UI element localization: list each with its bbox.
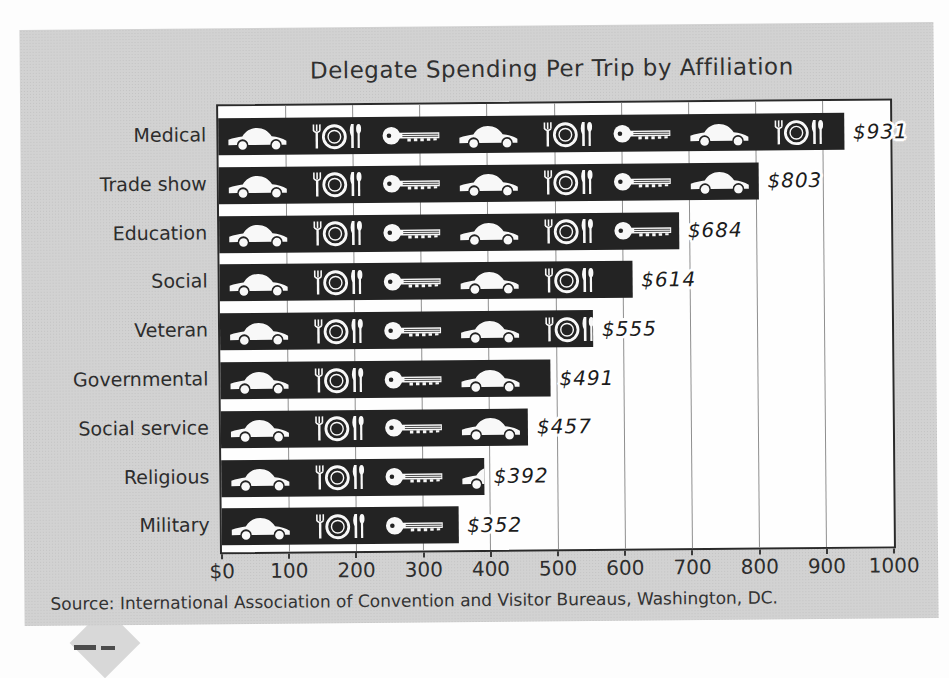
value-label-veteran: $555 (602, 316, 657, 340)
icon-slot (449, 116, 526, 154)
icon-slot (219, 215, 296, 253)
icon-slot (299, 507, 376, 545)
key-icon (382, 221, 442, 244)
category-label-governmental: Governmental (22, 360, 208, 399)
x-tick-label: 400 (455, 557, 527, 582)
icon-slot (604, 163, 681, 201)
icon-slot (375, 409, 452, 447)
place-setting-icon (308, 414, 364, 442)
car-icon (229, 465, 291, 492)
icon-slot (450, 213, 527, 251)
place-setting-icon (537, 119, 593, 147)
icon-slot (450, 262, 527, 300)
bar-social-service (221, 408, 528, 448)
bar-row: $803 (219, 161, 891, 204)
category-label-education: Education (21, 214, 207, 253)
car-icon (460, 463, 485, 490)
place-setting-icon (538, 266, 594, 294)
key-icon (612, 122, 672, 145)
icon-slot (375, 458, 452, 496)
key-icon (384, 465, 444, 488)
key-icon (612, 171, 672, 194)
car-icon (228, 367, 290, 394)
x-axis: $01002003004005006007008009001000 (19, 22, 933, 30)
x-tick-label: 100 (253, 558, 325, 583)
key-icon (383, 417, 443, 440)
place-setting-icon (538, 315, 593, 343)
x-tick-label: 600 (589, 555, 661, 580)
x-tick-label: 700 (656, 555, 728, 580)
icon-slot (527, 164, 604, 202)
value-label-trade-show: $803 (767, 168, 822, 192)
icon-slot (222, 508, 299, 546)
car-icon (226, 123, 288, 150)
category-labels: MedicalTrade showEducationSocialVeteranG… (19, 22, 933, 30)
icon-slot (220, 362, 297, 400)
x-tick-label: 200 (320, 558, 392, 583)
value-label-religious: $392 (494, 463, 549, 487)
bar-religious (221, 458, 485, 497)
value-label-governmental: $491 (559, 365, 614, 389)
place-setting-icon (306, 170, 362, 198)
x-tick-label: $0 (186, 559, 258, 584)
icon-slot (296, 263, 373, 301)
place-setting-icon (307, 219, 363, 247)
car-icon (227, 270, 289, 297)
icon-slot (376, 507, 453, 545)
icon-slot (296, 215, 373, 253)
bar-row: $684 (219, 210, 891, 253)
icon-slot (527, 261, 604, 299)
car-icon (229, 514, 291, 541)
icon-slot (451, 360, 528, 398)
x-tick-label: 800 (724, 554, 796, 579)
x-tick-label: 500 (522, 556, 594, 581)
icon-slot (450, 164, 527, 202)
chart-title: Delegate Spending Per Trip by Affiliatio… (216, 52, 888, 84)
key-icon (382, 319, 442, 342)
icon-slot (452, 458, 485, 495)
car-icon (458, 316, 520, 343)
key-icon (383, 368, 443, 391)
x-tick-label: 900 (791, 554, 863, 579)
car-icon (226, 172, 288, 199)
icon-slot (374, 360, 451, 398)
place-setting-icon (306, 122, 362, 150)
bar-row: $555 (220, 308, 892, 351)
bar-row: $392 (221, 454, 893, 497)
icon-slot (757, 113, 834, 151)
icon-slot (526, 115, 603, 153)
icon-slot (681, 162, 758, 200)
x-tick-label: 300 (388, 557, 460, 582)
chart-panel: Delegate Spending Per Trip by Affiliatio… (19, 22, 938, 626)
car-icon (227, 318, 289, 345)
bar-trade-show (219, 162, 759, 204)
category-label-social-service: Social service (23, 409, 209, 448)
place-setting-icon (309, 463, 365, 491)
bar-veteran (220, 310, 593, 350)
icon-slot (528, 310, 593, 348)
car-icon (458, 219, 520, 246)
bar-governmental (220, 359, 550, 399)
place-setting-icon (538, 217, 594, 245)
bar-row: $614 (219, 259, 891, 302)
icon-slot (373, 165, 450, 203)
category-label-religious: Religious (23, 458, 209, 497)
plot-area: $931 (216, 98, 896, 554)
gridline-layer (218, 100, 890, 106)
value-label-medical: $931 (853, 119, 908, 143)
icon-slot (372, 116, 449, 154)
icon-slot (297, 361, 374, 399)
car-icon (688, 168, 750, 195)
icon-slot (373, 214, 450, 252)
category-label-medical: Medical (20, 116, 206, 155)
icon-slot (373, 263, 450, 301)
key-icon (382, 270, 442, 293)
bar-medical (218, 113, 844, 155)
icon-slot (219, 166, 296, 204)
car-icon (459, 414, 521, 441)
bar-row: $457 (221, 405, 893, 448)
icon-slot (296, 166, 373, 204)
bar-row: $491 (220, 356, 892, 399)
category-label-veteran: Veteran (22, 312, 208, 351)
icon-slot (221, 459, 298, 497)
